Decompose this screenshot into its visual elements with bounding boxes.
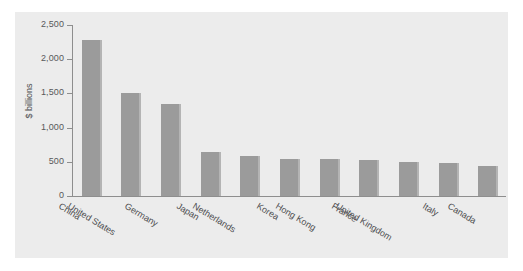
bar-group [121, 25, 141, 196]
y-axis-tick-label: 2,500 [12, 19, 64, 30]
bar-group [399, 25, 419, 196]
bar[interactable] [121, 93, 141, 196]
bar[interactable] [280, 159, 300, 196]
bar-group [320, 25, 340, 196]
bar-group [82, 25, 102, 196]
bar[interactable] [320, 159, 340, 196]
bar[interactable] [161, 104, 181, 196]
plot-area [72, 25, 508, 196]
x-axis-line [72, 196, 506, 197]
bar-group [201, 25, 221, 196]
y-axis-tick-label: 1,000 [12, 122, 64, 133]
y-axis-tick-label-text: 2,500 [18, 19, 64, 29]
y-axis-tick-label-text: 2,000 [18, 53, 64, 63]
y-axis-tick-label: 2,000 [12, 53, 64, 64]
bar-group [439, 25, 459, 196]
y-axis-tick-label: 500 [12, 156, 64, 167]
bar-group [359, 25, 379, 196]
y-axis-tick-label: 1,500 [12, 87, 64, 98]
bar[interactable] [359, 160, 379, 196]
bar[interactable] [478, 166, 498, 196]
y-axis-tick-label-text: 1,500 [18, 87, 64, 97]
bar-group [240, 25, 260, 196]
y-axis-tick-mark [67, 196, 72, 197]
y-axis-tick-label: 0 [12, 190, 64, 201]
bar[interactable] [240, 156, 260, 196]
y-axis-tick-label-text: 1,000 [18, 122, 64, 132]
bar-group [161, 25, 181, 196]
bar-group [478, 25, 498, 196]
bar[interactable] [201, 152, 221, 196]
chart-figure: $ billions 05001,0001,5002,0002,500 Chin… [0, 0, 523, 271]
y-axis-tick-label-text: 500 [18, 156, 64, 166]
bar[interactable] [439, 163, 459, 196]
y-axis-tick-label-text: 0 [18, 190, 64, 200]
bar-group [280, 25, 300, 196]
bar[interactable] [399, 162, 419, 196]
bar[interactable] [82, 40, 102, 196]
